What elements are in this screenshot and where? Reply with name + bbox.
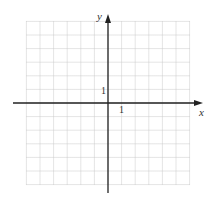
x-axis-label: x	[198, 106, 204, 118]
coordinate-plane: x y 1 1	[0, 0, 210, 201]
y-tick-label-1: 1	[101, 85, 106, 96]
y-axis-arrow-icon	[105, 14, 111, 23]
x-tick-label-1: 1	[119, 104, 124, 115]
y-axis-label: y	[96, 10, 102, 22]
